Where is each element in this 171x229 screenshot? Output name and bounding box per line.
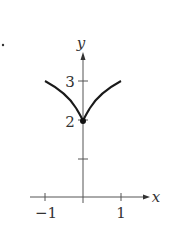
y-tick-label-3: 3 — [65, 73, 75, 91]
cusp-point — [80, 118, 86, 124]
x-tick-label-neg1: −1 — [35, 204, 57, 222]
x-axis-label: x — [152, 188, 161, 206]
x-tick-label-1: 1 — [116, 204, 126, 222]
y-axis-label: y — [76, 34, 86, 52]
y-axis-arrow-icon — [81, 52, 86, 60]
x-axis-arrow-icon — [143, 195, 150, 200]
bullet-mark — [2, 44, 4, 46]
curve-left — [45, 81, 83, 121]
chart-svg: y x 3 2 −1 1 — [0, 0, 171, 229]
curve-right — [83, 81, 121, 121]
y-tick-label-2: 2 — [65, 113, 75, 131]
